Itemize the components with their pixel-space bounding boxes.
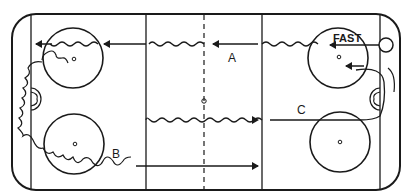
label-fast: FAST [333,32,361,44]
rink-diagram: A B C FAST [0,0,410,196]
goal-crease-right [370,88,380,110]
pylon-marker [379,38,393,52]
faceoff-circle-bottom-right [310,112,370,172]
label-a: A [228,51,236,65]
label-c: C [297,103,306,117]
label-b: B [112,147,120,161]
goal-crease-left [31,88,41,110]
